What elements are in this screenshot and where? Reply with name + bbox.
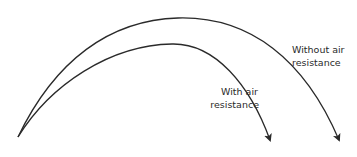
without-air-resistance-label: Without air resistance <box>292 43 345 69</box>
label-line: resistance <box>209 98 259 111</box>
trajectory-curves <box>0 0 357 157</box>
with-air-resistance-label: With air resistance <box>209 85 259 111</box>
label-line: resistance <box>292 56 345 69</box>
label-line: With air <box>209 85 259 98</box>
trajectory-diagram: Without air resistance With air resistan… <box>0 0 357 157</box>
without-air-resistance-curve <box>18 18 339 140</box>
label-line: Without air <box>292 43 345 56</box>
